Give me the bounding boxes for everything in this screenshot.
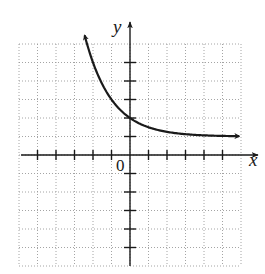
graph: x y 0 bbox=[0, 0, 265, 274]
origin-label: 0 bbox=[116, 156, 125, 175]
x-axis-label: x bbox=[248, 149, 258, 170]
y-axis-label: y bbox=[111, 16, 122, 37]
exponential-curve bbox=[85, 35, 239, 136]
